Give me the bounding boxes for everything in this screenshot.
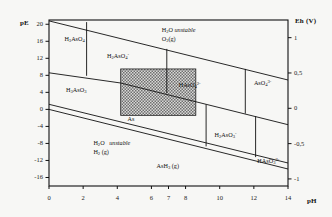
- species-label-aso4-3minus: AsO43-: [254, 80, 271, 88]
- species-label-h2aso3-minus: H2AsO3-: [215, 132, 237, 140]
- species-label-h3aso3: H3AsO3: [66, 87, 86, 95]
- species-label-haso4-2minus: HAsO42-: [179, 82, 201, 90]
- species-label-h3aso4: H3AsO4: [64, 36, 84, 44]
- annotation-arsine-gas: AsH3 (g): [157, 162, 179, 170]
- species-label-haso3-2minus: HAsO32-: [257, 158, 279, 166]
- annotation-water-unstable-reducing: H2O unstableH2 (g): [93, 139, 130, 156]
- species-label-h2aso4-minus: H2AsO4-: [107, 53, 129, 61]
- annotation-water-unstable-oxidizing: H2O unstableO2(g): [162, 26, 196, 43]
- pourbaix-diagram-figure: pE Eh (V) pH 201612840-4-8-12-16 10,50-0…: [0, 0, 332, 217]
- species-label-as-solid: As: [128, 116, 135, 123]
- boundary-lines: [49, 21, 288, 169]
